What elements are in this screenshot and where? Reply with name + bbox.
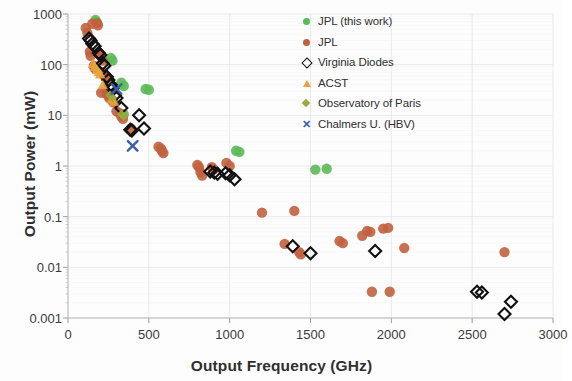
x-tick-label: 1500 <box>281 327 341 342</box>
legend-label: Chalmers U. (HBV) <box>318 118 415 130</box>
legend-item[interactable]: Observatory of Paris <box>299 93 499 114</box>
circle-marker-icon <box>299 34 315 50</box>
legend-item[interactable]: JPL (this work) <box>299 11 499 32</box>
chart-legend: JPL (this work)JPLVirginia DiodesACSTObs… <box>299 11 499 134</box>
x-tick-label: 3000 <box>523 327 572 342</box>
cross-marker-icon: ✕ <box>299 116 315 132</box>
legend-label: ACST <box>318 77 348 89</box>
diamond-open-marker-icon <box>299 54 315 70</box>
y-tick-label: 100 <box>4 57 62 72</box>
y-tick-label: 0.1 <box>4 209 62 224</box>
x-tick-label: 1000 <box>200 327 260 342</box>
y-tick-label: 10 <box>4 108 62 123</box>
x-axis-title: Output Frequency (GHz) <box>0 357 563 375</box>
y-tick-label: 1000 <box>4 7 62 22</box>
legend-item[interactable]: JPL <box>299 32 499 53</box>
circle-marker-icon <box>299 13 315 29</box>
x-tick-label: 2500 <box>442 327 502 342</box>
legend-label: Observatory of Paris <box>318 97 421 109</box>
x-tick-label: 2000 <box>361 327 421 342</box>
legend-label: Virginia Diodes <box>318 56 394 68</box>
legend-label: JPL <box>318 36 338 48</box>
legend-item[interactable]: Virginia Diodes <box>299 52 499 73</box>
x-tick-label: 500 <box>119 327 179 342</box>
y-tick-label: 1 <box>4 159 62 174</box>
y-tick-label: 0.001 <box>4 311 62 326</box>
x-tick-label: 0 <box>38 327 98 342</box>
legend-label: JPL (this work) <box>318 15 392 27</box>
diamond-fill-marker-icon <box>299 95 315 111</box>
triangle-marker-icon <box>299 75 315 91</box>
y-tick-label: 0.01 <box>4 260 62 275</box>
legend-item[interactable]: ACST <box>299 73 499 94</box>
legend-item[interactable]: ✕Chalmers U. (HBV) <box>299 114 499 135</box>
